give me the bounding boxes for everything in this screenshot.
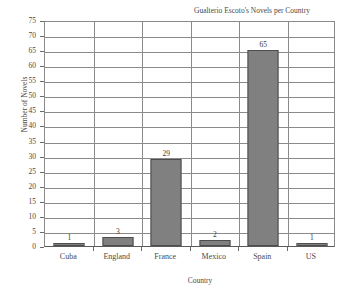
bar [296,243,327,246]
bar-value-label: 65 [260,41,268,49]
bar-value-label: 3 [116,228,120,236]
bar-value-label: 29 [163,150,171,158]
chart-title: Gualterio Escoto's Novels per Country [162,6,342,15]
y-axis-tick-label: 75 [2,17,36,25]
x-axis-tick-mark [287,247,288,251]
bar [102,237,133,246]
bar-value-label: 1 [67,234,71,242]
y-axis-tick-label: 0 [2,243,36,251]
bar-slot: 29 [142,22,191,246]
bar-value-label: 2 [213,231,217,239]
y-axis-tick-label: 35 [2,138,36,146]
x-axis-title: Country [150,276,250,285]
bar-slot: 65 [239,22,288,246]
y-axis-tick-label: 70 [2,32,36,40]
x-axis-tick-label: Mexico [190,252,239,262]
bar-slot: 1 [288,22,337,246]
bar [199,240,230,246]
y-axis-tick-label: 40 [2,122,36,130]
x-axis-tick-mark [238,247,239,251]
bar-value-label: 1 [310,234,314,242]
bar-slot: 2 [191,22,240,246]
y-axis-tick-label: 65 [2,47,36,55]
bar [151,159,182,246]
plot-area: 13292651 [44,21,335,247]
y-axis-tick-label: 20 [2,183,36,191]
x-axis-tick-label: US [287,252,336,262]
y-axis-tick-label: 10 [2,213,36,221]
x-axis-tick-mark [190,247,191,251]
y-axis-tick-label: 45 [2,107,36,115]
y-axis-tick-label: 15 [2,198,36,206]
y-axis-tick-label: 60 [2,62,36,70]
x-axis-tick-label: Spain [238,252,287,262]
bar-slot: 3 [94,22,143,246]
y-axis-tick-label: 55 [2,77,36,85]
bar-slot: 1 [45,22,94,246]
y-axis-tick-label: 25 [2,168,36,176]
y-axis-tick-label: 5 [2,228,36,236]
y-axis-tick-label: 30 [2,153,36,161]
bar [248,50,279,246]
y-axis-tick-mark [40,247,44,248]
y-axis-tick-label: 50 [2,92,36,100]
x-axis-tick-label: Cuba [44,252,93,262]
x-axis-tick-label: England [93,252,142,262]
x-axis-tick-mark [93,247,94,251]
bar [54,243,85,246]
x-axis-tick-label: France [141,252,190,262]
x-axis-tick-mark [141,247,142,251]
